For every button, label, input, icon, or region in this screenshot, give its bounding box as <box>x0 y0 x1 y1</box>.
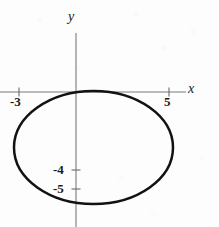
graph-figure: x y -3 5 -4 -5 <box>0 0 219 227</box>
y-tick-label-neg4: -4 <box>53 163 64 176</box>
x-axis-label: x <box>188 82 194 96</box>
ellipse-curve <box>14 91 173 204</box>
x-tick-label-neg3: -3 <box>10 95 21 108</box>
plot-canvas <box>0 0 219 227</box>
y-axis-label: y <box>68 10 74 24</box>
x-tick-label-5: 5 <box>164 95 171 108</box>
y-tick-label-neg5: -5 <box>53 182 64 195</box>
